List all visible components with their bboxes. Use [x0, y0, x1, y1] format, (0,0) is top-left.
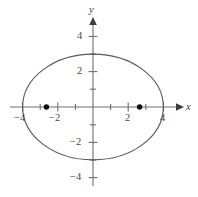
- x-axis-arrow-icon: [176, 103, 184, 111]
- x-tick-label-neg2: −2: [49, 113, 61, 124]
- y-tick-label-neg2: −2: [70, 137, 82, 148]
- y-tick-label-neg4: −4: [70, 172, 82, 183]
- plot-canvas: [0, 0, 198, 197]
- y-tick-label-pos4: 4: [77, 31, 82, 42]
- focus-point-left: [44, 104, 49, 109]
- ellipse-figure: x y −4 −2 2 4 4 2 −2 −4: [0, 0, 198, 197]
- focus-point-right: [137, 104, 142, 109]
- y-axis-arrow-icon: [89, 17, 97, 25]
- x-tick-label-pos4: 4: [160, 113, 165, 124]
- y-axis-label: y: [89, 5, 94, 16]
- y-tick-label-pos2: 2: [77, 66, 82, 77]
- x-axis-label: x: [186, 102, 191, 113]
- x-tick-label-pos2: 2: [125, 113, 130, 124]
- x-tick-label-neg4: −4: [14, 113, 26, 124]
